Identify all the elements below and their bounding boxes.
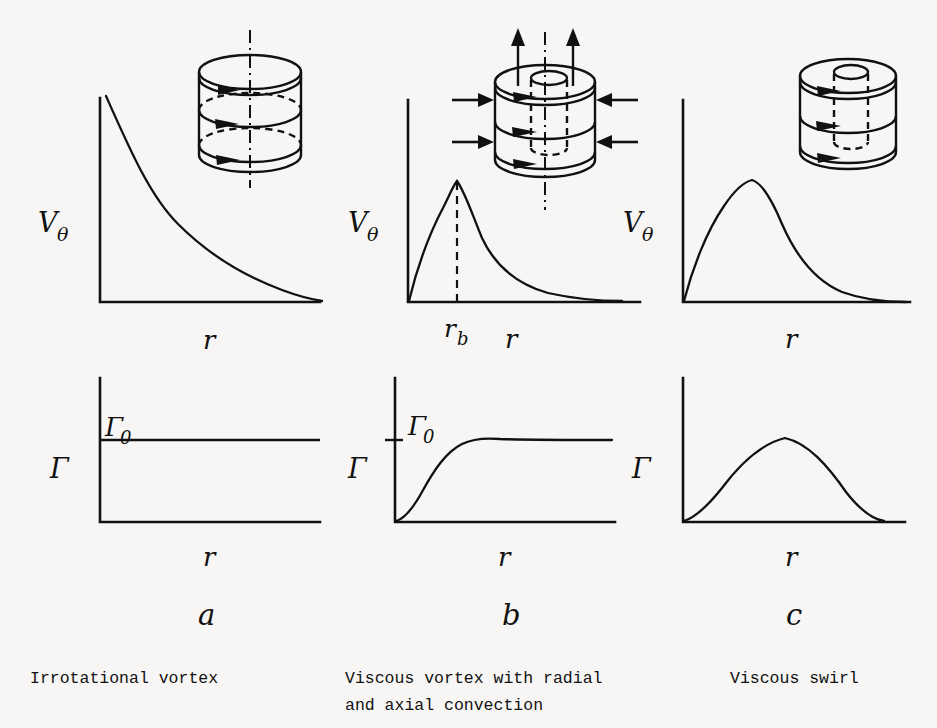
- panel-a-circulation-chart: Γ 0 Γ r: [49, 378, 320, 572]
- panel-c-circulation-xlabel: r: [785, 542, 799, 572]
- panel-c-circulation-ylabel: Γ: [631, 453, 652, 484]
- panel-b-axial-arrow-right-icon: [566, 28, 580, 46]
- panel-a-cylinder-icon: [199, 30, 301, 188]
- panel-c-circulation-chart: Γ r: [631, 378, 905, 572]
- panel-b-rb-sub: b: [457, 328, 469, 349]
- panel-c-velocity-ylabel-sub: θ: [642, 223, 654, 245]
- panel-c-swirl-arrow-1-icon: [817, 86, 841, 96]
- panel-a-velocity-curve: [106, 96, 322, 301]
- panel-c-swirl-ring-2: [800, 116, 896, 133]
- panel-b-velocity-xlabel: r: [505, 324, 519, 354]
- panel-b-swirl-arrow-2-icon: [512, 127, 537, 137]
- panel-b-rb-label: r: [444, 314, 458, 343]
- panel-a-velocity-axes: [100, 98, 320, 302]
- panel-b-radial-arrow-l2-icon: [478, 135, 494, 149]
- figure-canvas: V θ r Γ 0 Γ r a Irrotational vortex: [0, 0, 937, 728]
- panel-b-radial-arrow-l1-icon: [478, 93, 494, 107]
- panel-b-radial-arrow-r1-icon: [596, 93, 612, 107]
- panel-b-gamma0-sub: 0: [423, 426, 434, 447]
- panel-c-swirl-arrow-2-icon: [816, 121, 841, 131]
- panel-b-circulation-xlabel: r: [498, 542, 512, 572]
- panel-c-core-bottom-hidden: [834, 142, 868, 149]
- panel-b-circulation-curve: [396, 439, 612, 521]
- panel-c-cylinder-core-ellipse: [834, 65, 868, 79]
- panel-b-velocity-ylabel-sub: θ: [367, 223, 379, 245]
- panel-a-caption: Irrotational vortex: [30, 669, 218, 688]
- panel-a-circulation-xlabel: r: [203, 542, 217, 572]
- panel-c-caption: Viscous swirl: [730, 669, 859, 688]
- panel-a-velocity-chart: V θ r: [38, 96, 322, 355]
- panel-a-letter: a: [198, 598, 215, 632]
- panel-a-velocity-xlabel: r: [203, 325, 217, 355]
- panel-b-cylinder-icon: [452, 28, 638, 210]
- panel-b-velocity-curve: [409, 181, 622, 301]
- panel-c-velocity-curve: [684, 180, 906, 302]
- panel-b-swirl-arrow-1-icon: [513, 92, 537, 102]
- panel-c-circulation-curve: [684, 438, 884, 521]
- panel-a-swirl-arrow-3-icon: [216, 155, 240, 165]
- panel-b-core-bottom-hidden: [531, 148, 567, 155]
- vortex-figure: V θ r Γ 0 Γ r a Irrotational vortex: [0, 0, 937, 728]
- panel-c-circulation-axes: [683, 378, 905, 522]
- panel-a-velocity-ylabel-sub: θ: [57, 223, 69, 245]
- panel-b-letter: b: [502, 598, 521, 632]
- panel-c-cylinder-icon: [800, 59, 896, 169]
- panel-b-caption: Viscous vortex with radial: [345, 669, 602, 688]
- panel-b-axial-arrow-left-icon: [511, 28, 525, 46]
- panel-c-letter: c: [786, 598, 802, 632]
- panel-c-velocity-xlabel: r: [785, 324, 799, 354]
- panel-c-swirl-ring-1: [800, 82, 896, 99]
- panel-a-circulation-ylabel: Γ: [49, 453, 70, 484]
- panel-a-circulation-axes: [100, 378, 320, 522]
- panel-b-radial-arrow-r2-icon: [596, 135, 612, 149]
- panel-c-cylinder-bottom-arc: [800, 152, 896, 169]
- panel-b-caption-line2: and axial convection: [345, 696, 543, 715]
- panel-b-circulation-ylabel: Γ: [347, 453, 368, 484]
- panel-b-cylinder-core-ellipse: [531, 71, 567, 85]
- panel-a-gamma0-sub: 0: [120, 427, 131, 448]
- panel-b-circulation-axes: [395, 378, 615, 522]
- panel-b-circulation-chart: Γ 0 Γ r: [347, 378, 615, 572]
